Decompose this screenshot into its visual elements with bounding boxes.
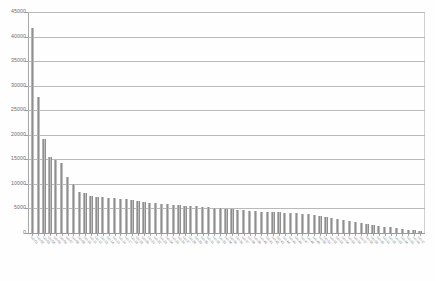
bar (130, 200, 133, 233)
bar (330, 218, 333, 233)
bar (95, 197, 98, 233)
bar (418, 231, 421, 233)
x-axis-labels: cat-01cat-02cat-03cat-04cat-05cat-06cat-… (28, 234, 425, 281)
bar (266, 212, 269, 233)
bar (148, 203, 151, 233)
bar (360, 223, 363, 233)
bar (336, 219, 339, 233)
y-tick-mark (25, 184, 28, 185)
bar (307, 214, 310, 233)
bar (219, 208, 222, 233)
bar (236, 210, 239, 233)
bar (295, 213, 298, 233)
y-tick-mark (25, 37, 28, 38)
bar (89, 196, 92, 233)
bar (377, 226, 380, 233)
bar-series (28, 12, 425, 233)
bar (119, 199, 122, 233)
bar (354, 222, 357, 233)
bar (230, 209, 233, 233)
y-tick-mark (25, 233, 28, 234)
bar (54, 160, 57, 233)
bar (283, 213, 286, 233)
bar (407, 230, 410, 233)
bar (383, 227, 386, 233)
y-tick-mark (25, 159, 28, 160)
y-tick-mark (25, 12, 28, 13)
y-tick-label: 20000 (11, 132, 26, 137)
bar (342, 220, 345, 233)
bar (189, 206, 192, 233)
bar (142, 202, 145, 233)
bar (242, 210, 245, 233)
y-tick-mark (25, 61, 28, 62)
bar (177, 205, 180, 233)
y-tick-label: 25000 (11, 108, 26, 113)
y-tick-label: 35000 (11, 59, 26, 64)
bar (318, 216, 321, 233)
bar (365, 224, 368, 233)
bar (83, 193, 86, 233)
bar (37, 97, 40, 233)
y-tick-label: 40000 (11, 34, 26, 39)
y-tick-mark (25, 208, 28, 209)
bar (248, 211, 251, 233)
y-tick-label: 45000 (11, 9, 26, 14)
bar (201, 207, 204, 233)
bar (42, 139, 45, 233)
bar (213, 208, 216, 233)
bar (31, 28, 34, 233)
bar (107, 198, 110, 233)
bar (113, 198, 116, 233)
plot-area (28, 12, 425, 233)
bar (260, 212, 263, 233)
bar (78, 192, 81, 233)
bar (271, 212, 274, 233)
y-tick-mark (25, 86, 28, 87)
bar (371, 225, 374, 233)
bar (412, 230, 415, 233)
bar (195, 206, 198, 233)
bar (401, 229, 404, 233)
bar (395, 228, 398, 233)
bar (183, 206, 186, 234)
bar (154, 203, 157, 233)
bar-chart: 0500010000150002000025000300003500040000… (0, 0, 435, 281)
bar (101, 197, 104, 233)
bar (389, 227, 392, 233)
bar (313, 215, 316, 233)
y-tick-label: 15000 (11, 157, 26, 162)
y-axis-labels: 0500010000150002000025000300003500040000… (0, 0, 26, 281)
bar (301, 214, 304, 233)
bar (172, 205, 175, 233)
bar (289, 213, 292, 233)
bar (136, 201, 139, 233)
bar (277, 212, 280, 233)
bar (72, 184, 75, 233)
y-tick-mark (25, 135, 28, 136)
bar (254, 211, 257, 233)
bar (66, 177, 69, 233)
bar (324, 217, 327, 233)
bar (224, 209, 227, 233)
bar (160, 204, 163, 233)
y-tick-label: 30000 (11, 83, 26, 88)
y-tick-label: 10000 (11, 181, 26, 186)
bar (348, 221, 351, 233)
bar (48, 157, 51, 233)
y-tick-mark (25, 110, 28, 111)
bar (166, 204, 169, 233)
bar (125, 199, 128, 233)
bar (60, 163, 63, 233)
bar (207, 207, 210, 233)
